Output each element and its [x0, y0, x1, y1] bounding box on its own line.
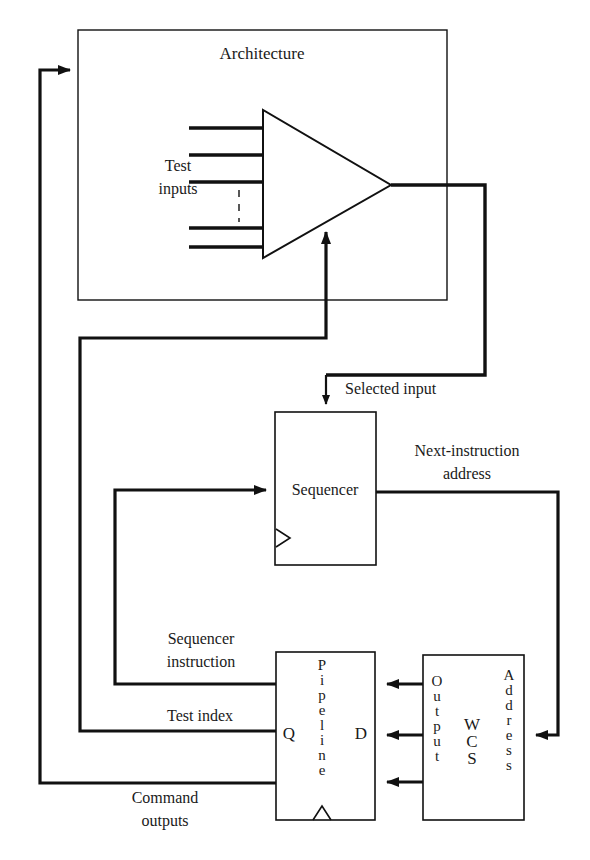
next-instruction-address-wire	[376, 492, 558, 735]
pipeline-clock-notch	[313, 806, 331, 820]
vertical-label-char: u	[433, 734, 441, 749]
sequencer-label: Sequencer	[292, 481, 359, 499]
vertical-label-char: i	[320, 733, 324, 748]
test-inputs-label-line1: Test	[165, 157, 191, 175]
wcs-to-pipeline-wires	[387, 684, 423, 782]
wcs-port-output-label-vertical: Output	[432, 674, 443, 764]
pipeline-port-d-label: D	[355, 724, 367, 743]
vertical-label-char: d	[505, 698, 513, 713]
command-outputs-label-line1: Command	[132, 789, 199, 807]
vertical-label-char: e	[319, 763, 326, 778]
vertical-label-char: O	[432, 674, 443, 689]
vertical-label-char: e	[319, 703, 326, 718]
vertical-label-char: l	[320, 718, 324, 733]
command-outputs-wire	[40, 70, 276, 783]
vertical-label-char: t	[435, 749, 439, 764]
vertical-label-char: i	[320, 673, 324, 688]
test-index-label: Test index	[167, 707, 233, 725]
selected-input-label: Selected input	[345, 380, 436, 398]
wcs-label-vertical: WCS	[464, 716, 480, 767]
pipeline-port-q-label: Q	[283, 724, 295, 743]
vertical-label-char: p	[318, 688, 326, 703]
wcs-port-address-label-vertical: Address	[504, 668, 515, 773]
command-outputs-label-line2: outputs	[141, 812, 188, 830]
architecture-label: Architecture	[220, 44, 305, 63]
next-instruction-address-label-line1: Next-instruction	[415, 442, 520, 460]
vertical-label-char: s	[506, 758, 512, 773]
sequencer-clock-notch	[276, 529, 290, 547]
vertical-label-char: W	[464, 716, 480, 733]
vertical-label-char: n	[318, 748, 326, 763]
sequencer-instruction-label-line1: Sequencer	[168, 630, 235, 648]
vertical-label-char: u	[433, 689, 441, 704]
vertical-label-char: r	[507, 713, 512, 728]
vertical-label-char: C	[466, 733, 477, 750]
sequencer-instruction-label-line2: instruction	[167, 653, 235, 671]
vertical-label-char: d	[505, 683, 513, 698]
vertical-label-char: S	[467, 750, 476, 767]
vertical-label-char: A	[504, 668, 515, 683]
test-inputs-label-line2: inputs	[158, 180, 197, 198]
block-diagram: Architecture Test inputs Selected input …	[0, 0, 590, 860]
test-input-lines	[189, 128, 264, 247]
vertical-label-char: p	[433, 719, 441, 734]
vertical-label-char: t	[435, 704, 439, 719]
pipeline-label-vertical: Pipeline	[318, 658, 326, 778]
vertical-label-char: e	[506, 728, 513, 743]
vertical-label-char: s	[506, 743, 512, 758]
mux-output-wire	[326, 185, 485, 375]
next-instruction-address-label-line2: address	[443, 465, 491, 483]
vertical-label-char: P	[318, 658, 326, 673]
